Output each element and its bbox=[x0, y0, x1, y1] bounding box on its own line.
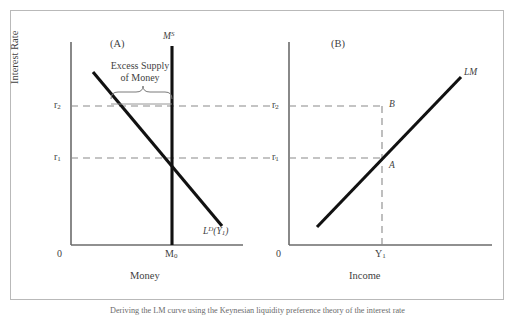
point-b-label: B bbox=[389, 100, 395, 110]
figure-caption: Deriving the LM curve using the Keynesia… bbox=[0, 306, 515, 316]
panel-a-y-axis-title: Interest Rate bbox=[9, 0, 20, 84]
panel-a-x-axis-title: Money bbox=[130, 271, 160, 282]
panel-a-tick-r1: r1 bbox=[54, 152, 61, 163]
panel-a-tick-r2: r2 bbox=[54, 100, 61, 111]
diagram-canvas bbox=[0, 0, 515, 316]
excess-supply-annotation: Excess Supply of Money bbox=[98, 60, 182, 83]
panel-b-origin-label: 0 bbox=[276, 249, 281, 259]
panel-b-tag: (B) bbox=[331, 39, 345, 50]
panel-b-tick-r2: r2 bbox=[272, 100, 279, 111]
panel-b-x-axis-title: Income bbox=[349, 271, 381, 282]
money-demand-label: LD(Y1) bbox=[203, 226, 228, 237]
lm-curve-label: LM bbox=[464, 68, 477, 78]
panel-b-tick-y1: Y1 bbox=[375, 249, 386, 260]
panel-a-origin-label: 0 bbox=[57, 249, 62, 259]
excess-supply-brace bbox=[111, 86, 172, 99]
point-a-label: A bbox=[389, 161, 395, 171]
panel-a-tick-m0: M0 bbox=[165, 249, 177, 260]
panel-b-tick-r1: r1 bbox=[272, 152, 279, 163]
panel-a-tag: (A) bbox=[110, 39, 125, 50]
money-supply-label: MS bbox=[163, 31, 174, 41]
